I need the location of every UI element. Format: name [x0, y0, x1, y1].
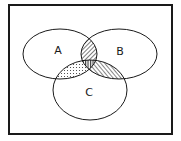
set-a-label: A [54, 44, 62, 57]
venn-diagram: A B C [0, 0, 181, 141]
set-c-label: C [85, 86, 93, 99]
set-b-label: B [116, 45, 124, 58]
